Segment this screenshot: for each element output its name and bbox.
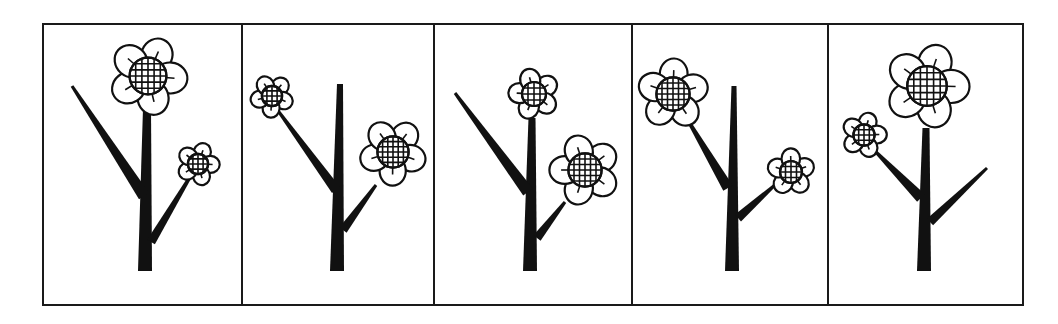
flower-sequence-figure bbox=[0, 0, 1058, 324]
flower-large-left-branch bbox=[635, 58, 711, 131]
branch-left bbox=[873, 149, 925, 202]
flower-small-top bbox=[508, 67, 561, 122]
panel-3 bbox=[454, 67, 622, 272]
panel-1 bbox=[71, 34, 220, 271]
branch-right bbox=[735, 183, 777, 222]
flower-small-right-branch bbox=[766, 148, 817, 197]
branch-left bbox=[278, 111, 340, 193]
panel-4 bbox=[635, 58, 817, 271]
panels bbox=[71, 34, 988, 271]
branch-right bbox=[147, 171, 194, 244]
branch-right bbox=[339, 184, 377, 233]
flower-small-left-branch bbox=[840, 111, 887, 160]
flower-small-left-branch bbox=[249, 73, 295, 118]
branch-right bbox=[533, 201, 566, 241]
flower-large-top bbox=[106, 34, 189, 118]
panel-5 bbox=[840, 40, 988, 271]
flower-large-right-branch bbox=[549, 132, 622, 208]
branch-right bbox=[927, 167, 988, 225]
flower-large-top bbox=[883, 40, 970, 131]
main-stem bbox=[523, 118, 537, 271]
flower-large-right-branch bbox=[357, 117, 429, 186]
flower-small-right-branch bbox=[175, 141, 220, 188]
branch-left bbox=[685, 116, 733, 191]
panel-2 bbox=[249, 73, 429, 271]
